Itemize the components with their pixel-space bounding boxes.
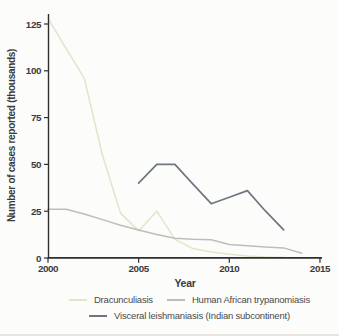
legend-swatch-human-african-trypanomiasis: [167, 299, 185, 301]
series-line-human-african-trypanomiasis: [48, 209, 302, 253]
series-line-dracunculiasis: [48, 18, 284, 257]
legend-item-dracunculiasis: Dracunculiasis: [69, 294, 153, 306]
y-tick-label: 125: [26, 19, 42, 30]
y-axis-title: Number of cases reported (thousands): [6, 41, 17, 231]
x-axis-title: Year: [48, 277, 322, 289]
legend-label: Human African trypanomiasis: [192, 294, 310, 306]
x-tick-label: 2010: [219, 263, 240, 274]
legend-swatch-visceral-leishmaniasis-indian-subcontinent: [89, 315, 107, 317]
legend: DracunculiasisHuman African trypanomiasi…: [40, 294, 339, 322]
y-tick-label: 0: [36, 253, 42, 264]
y-tick-label: 50: [31, 159, 42, 170]
legend-row: Visceral leishmaniasis (Indian subcontin…: [89, 310, 290, 322]
chart-canvas: 02550751001252000200520102015: [0, 0, 339, 290]
legend-label: Visceral leishmaniasis (Indian subcontin…: [114, 310, 290, 322]
y-tick-label: 25: [31, 206, 42, 217]
legend-swatch-dracunculiasis: [69, 299, 87, 301]
figure: 02550751001252000200520102015 Number of …: [0, 0, 339, 336]
x-tick-label: 2005: [129, 263, 150, 274]
series-line-visceral-leishmaniasis-indian-subcontinent: [139, 164, 284, 230]
x-tick-label: 2015: [310, 263, 331, 274]
legend-label: Dracunculiasis: [94, 294, 153, 306]
legend-item-human-african-trypanomiasis: Human African trypanomiasis: [167, 294, 310, 306]
y-tick-label: 75: [31, 112, 42, 123]
legend-row: DracunculiasisHuman African trypanomiasi…: [69, 294, 310, 306]
x-tick-label: 2000: [38, 263, 59, 274]
y-tick-label: 100: [26, 65, 42, 76]
legend-item-visceral-leishmaniasis-indian-subcontinent: Visceral leishmaniasis (Indian subcontin…: [89, 310, 290, 322]
